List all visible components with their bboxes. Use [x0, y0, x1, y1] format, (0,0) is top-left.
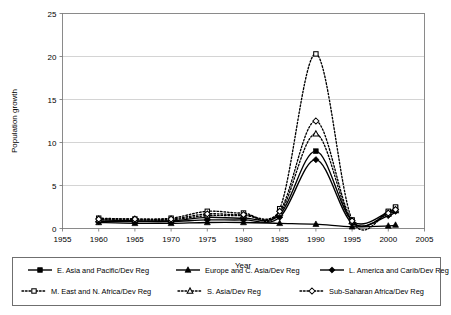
y-tick-label: 20: [48, 53, 57, 62]
x-tick-label: 1955: [54, 235, 72, 244]
population-growth-chart: 0510152025 19551960196519701975198019851…: [0, 0, 451, 315]
x-tick-label: 1970: [162, 235, 180, 244]
y-tick-label: 25: [48, 10, 57, 19]
x-tick-label: 1990: [307, 235, 325, 244]
legend-label: Europe and C. Asia/Dev Reg: [205, 266, 300, 275]
legend-label: S. Asia/Dev Reg: [207, 287, 261, 296]
chart-canvas: 0510152025 19551960196519701975198019851…: [0, 0, 451, 315]
x-tick-label: 1960: [90, 235, 108, 244]
legend-label: E. Asia and Pacific/Dev Reg: [57, 266, 149, 275]
x-tick-label: 2005: [416, 235, 434, 244]
series-marker: [314, 149, 319, 154]
x-tick-label: 1980: [235, 235, 253, 244]
y-tick-label: 15: [48, 96, 57, 105]
x-tick-label: 1995: [343, 235, 361, 244]
y-tick-label: 0: [52, 225, 57, 234]
y-axis-label: Population growth: [10, 89, 19, 153]
legend-label: M. East and N. Africa/Dev Reg: [51, 287, 151, 296]
y-tick-label: 5: [52, 182, 57, 191]
legend-marker: [32, 289, 36, 293]
x-tick-label: 1965: [126, 235, 144, 244]
y-tick-label: 10: [48, 139, 57, 148]
legend-marker: [38, 268, 43, 273]
legend-label: Sub-Saharan Africa/Dev Reg: [329, 287, 424, 296]
x-tick-label: 1975: [198, 235, 216, 244]
legend-label: L. America and Carib/Dev Reg: [349, 266, 449, 275]
series-marker: [314, 52, 318, 56]
x-tick-label: 1985: [271, 235, 289, 244]
x-tick-label: 2000: [379, 235, 397, 244]
